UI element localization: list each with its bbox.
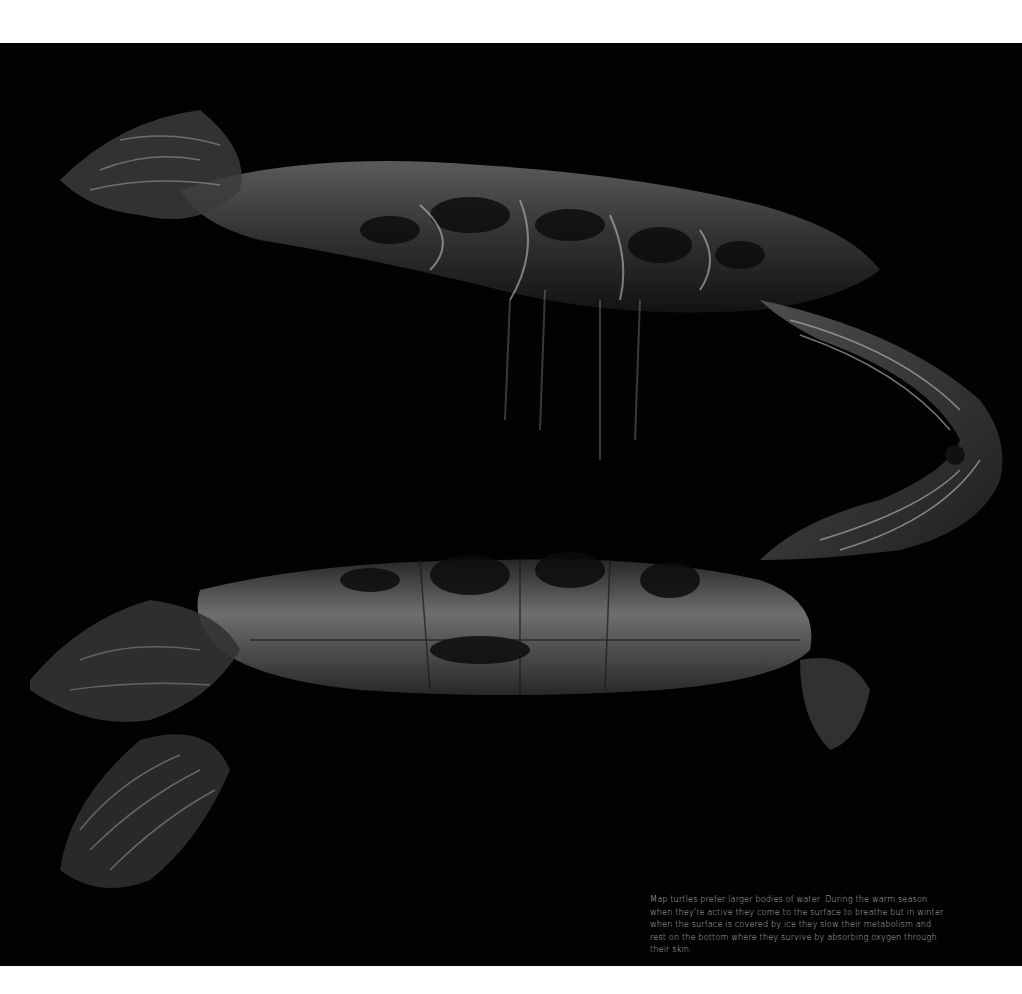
turtle-photo: Map turtles prefer larger bodies of wate… — [0, 43, 1022, 966]
turtle-illustration — [0, 43, 1022, 966]
photo-caption: Map turtles prefer larger bodies of wate… — [650, 893, 950, 956]
